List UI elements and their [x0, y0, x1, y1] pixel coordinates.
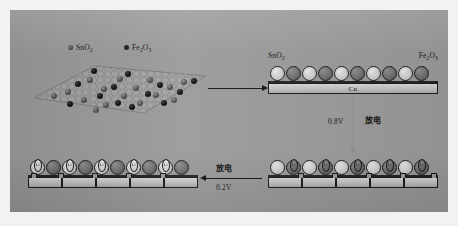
pristine-label-sno2: SnO2 [268, 52, 285, 60]
second-discharge-process-label: 放电 [216, 165, 232, 173]
particle-fe2o3 [414, 66, 429, 81]
particle-fe2o3 [382, 66, 397, 81]
legend-item-sno2: SnO2 [68, 44, 93, 52]
second-discharge-arrow-head-icon [200, 175, 206, 181]
li-marker: Li [418, 159, 426, 172]
particle-fe2o3 [110, 160, 125, 175]
discharged08-particle-row: Li Li Li Li Li [270, 158, 436, 175]
pristine-label-fe2o3: Fe2O3 [419, 52, 438, 60]
first-discharge-arrow-head-icon [350, 148, 356, 157]
particle-sno2 [334, 66, 349, 81]
discharged-electrode-0-8v: Li Li Li Li Li [268, 158, 438, 198]
particle-fe2o3 [78, 160, 93, 175]
li-marker: Li [386, 159, 394, 172]
collector-label-cu: Cu [349, 85, 358, 93]
graphene-nanosheet [32, 58, 208, 118]
legend-marker-fe2o3-icon [124, 45, 129, 50]
diagram-panel: SnO2 Fe2O3 [10, 10, 448, 212]
particle-fe2o3 [174, 160, 189, 175]
particle-sno2 [302, 66, 317, 81]
li-marker: Li [98, 159, 106, 172]
li-marker: Li [162, 159, 170, 172]
synthesis-arrow-line [208, 88, 264, 89]
discharged02-collector-segments [28, 177, 198, 188]
particle-fe2o3 [350, 66, 365, 81]
particle-sno2 [398, 66, 413, 81]
li-marker: Li [66, 159, 74, 172]
particle-fe2o3 [142, 160, 157, 175]
particle-fe2o3 [286, 66, 301, 81]
li-marker: Li [290, 159, 298, 172]
pristine-electrode: SnO2 Fe2O3 Cu [268, 54, 438, 96]
li-marker: Li [130, 159, 138, 172]
first-discharge-arrow-line [353, 96, 354, 150]
particle-sno2 [270, 66, 285, 81]
legend-label-sno2: SnO2 [76, 44, 93, 52]
li-marker: Li [34, 159, 42, 172]
legend-marker-sno2-icon [68, 45, 73, 50]
particle-sno2 [270, 160, 285, 175]
second-discharge-arrow-line [206, 178, 262, 179]
particle-fe2o3 [318, 66, 333, 81]
second-discharge-voltage: 0.2V [216, 184, 232, 192]
discharged08-collector-segments [268, 177, 438, 188]
particle-sno2 [366, 66, 381, 81]
first-discharge-process-label: 放电 [365, 117, 381, 125]
li-marker: Li [322, 159, 330, 172]
nanosheet-svg [32, 58, 208, 118]
pristine-particle-row [270, 64, 436, 81]
first-discharge-voltage: 0.8V [328, 118, 344, 126]
discharged-electrode-0-2v: Li Li Li Li Li [28, 158, 198, 198]
discharged02-particle-row: Li Li Li Li Li [30, 158, 196, 175]
pristine-current-collector: Cu [268, 83, 438, 94]
particle-sno2 [302, 160, 317, 175]
legend-item-fe2o3: Fe2O3 [124, 44, 151, 52]
li-marker: Li [354, 159, 362, 172]
legend-label-fe2o3: Fe2O3 [132, 44, 151, 52]
figure-container: SnO2 Fe2O3 [0, 0, 458, 226]
